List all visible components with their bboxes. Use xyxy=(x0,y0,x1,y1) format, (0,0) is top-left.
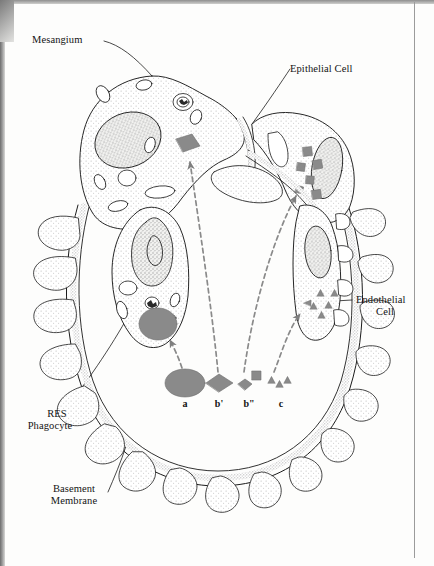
arrow-phagocyte-uptake xyxy=(170,340,182,368)
arrow-subepithelial xyxy=(244,196,296,372)
key-glyph-c-3 xyxy=(284,377,291,384)
arrow-subendothelial xyxy=(274,314,300,372)
key-glyphs xyxy=(165,369,291,397)
label-endothelial-cell-line1: Endothelial xyxy=(356,294,406,306)
endothelial-process-horizontal xyxy=(211,166,282,203)
deposit-phagocytosed-blob xyxy=(139,308,177,340)
key-label-b-double-prime: b" xyxy=(239,398,259,409)
key-glyph-b-double-square xyxy=(252,371,261,380)
mesangium-dense-body xyxy=(177,97,189,107)
key-glyph-c-2 xyxy=(276,381,283,388)
scanned-page: Mesangium Epithelial Cell Endothelial Ce… xyxy=(0,0,434,566)
label-basement-membrane-line1: Basement xyxy=(40,483,108,495)
label-basement-membrane-line2: Membrane xyxy=(40,495,108,507)
label-res-phagocyte-line1: RES xyxy=(22,408,92,420)
central-cell-dense-body xyxy=(145,297,159,309)
key-label-b-prime: b' xyxy=(209,398,229,409)
label-endothelial-cell-line2: Cell xyxy=(356,306,414,318)
label-mesangium: Mesangium xyxy=(32,34,82,46)
glomerular-capillary-figure xyxy=(0,0,434,566)
key-label-a: a xyxy=(175,398,195,409)
key-label-c: c xyxy=(271,398,291,409)
key-glyph-c-1 xyxy=(268,377,275,384)
key-glyph-b-prime xyxy=(206,374,233,392)
leader-mesangium xyxy=(104,41,152,76)
label-epithelial-cell: Epithelial Cell xyxy=(290,63,352,75)
key-glyph-b-double-diamond xyxy=(238,379,252,390)
label-res-phagocyte-line2: Phagocyte xyxy=(8,420,92,432)
arrow-mesangial-deposit xyxy=(190,162,218,372)
